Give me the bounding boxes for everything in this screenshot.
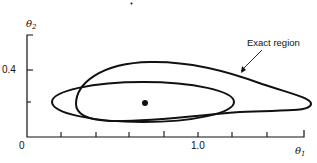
x-ticks bbox=[61, 131, 267, 137]
confidence-region-chart: θ2 0.4 0 1.0 θ1 Exact region bbox=[0, 0, 317, 163]
y-axis-label: θ2 bbox=[26, 19, 37, 31]
annotation-arrow bbox=[241, 50, 262, 71]
point-estimate-dot bbox=[142, 100, 148, 106]
x-tick-label-1.0: 1.0 bbox=[191, 141, 205, 151]
exact-region-annotation: Exact region bbox=[247, 38, 300, 48]
y-tick-label-0.4: 0.4 bbox=[2, 65, 16, 75]
exact-region-curve bbox=[76, 62, 311, 121]
print-speck bbox=[131, 3, 133, 5]
x-axis-label: θ1 bbox=[295, 146, 306, 158]
x-tick-label-0: 0 bbox=[19, 141, 25, 151]
plot-area bbox=[0, 0, 317, 163]
